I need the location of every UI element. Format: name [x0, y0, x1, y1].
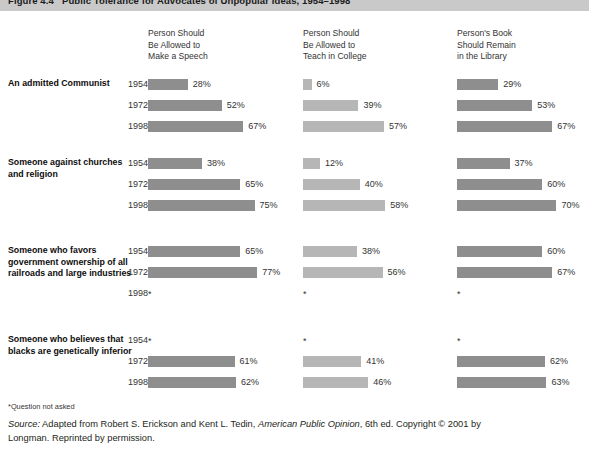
- bar: [457, 100, 532, 111]
- figure-title-bar: Figure 4.4 Public Tolerance for Advocate…: [0, 0, 589, 11]
- column-header-library: Person's Book Should Remain in the Libra…: [457, 28, 516, 63]
- bar: [303, 356, 361, 367]
- bar-value-label: 60%: [547, 179, 565, 189]
- bar: [303, 200, 385, 211]
- bar-value-label: 67%: [557, 121, 575, 131]
- bar: [303, 267, 383, 278]
- bar-value-label: 53%: [537, 100, 555, 110]
- bar: [303, 179, 360, 190]
- bar-value-label: 12%: [325, 158, 343, 168]
- bar-value-label: 65%: [245, 246, 263, 256]
- bar-value-label: 38%: [362, 246, 380, 256]
- bar: [148, 79, 188, 90]
- bar: [148, 179, 240, 190]
- year-label: 1954: [128, 335, 158, 345]
- not-asked-marker: *: [148, 336, 152, 346]
- bar: [457, 246, 542, 257]
- bar: [148, 100, 222, 111]
- bar: [303, 121, 384, 132]
- bar-value-label: 67%: [557, 267, 575, 277]
- bar: [148, 267, 257, 278]
- bar: [148, 377, 236, 388]
- bar-value-label: 39%: [363, 100, 381, 110]
- bar-value-label: 63%: [551, 377, 569, 387]
- bar-row: 1954***: [0, 334, 589, 347]
- bar-value-label: 6%: [317, 79, 330, 89]
- bar: [303, 79, 312, 90]
- bar: [457, 121, 552, 132]
- bar-value-label: 28%: [193, 79, 211, 89]
- bar-row: 197261%41%62%: [0, 355, 589, 368]
- not-asked-marker: *: [457, 289, 461, 299]
- bar-value-label: 75%: [260, 200, 278, 210]
- chart-group: Someone who believes that blacks are gen…: [0, 334, 589, 397]
- bar-value-label: 56%: [388, 267, 406, 277]
- bar: [457, 79, 498, 90]
- footnote: *Question not asked: [8, 402, 75, 411]
- bar-row: 197277%56%67%: [0, 266, 589, 279]
- figure-number-label: Figure 4.4: [8, 0, 54, 6]
- bar-value-label: 65%: [245, 179, 263, 189]
- bar: [457, 158, 510, 169]
- year-label: 1998: [128, 288, 158, 298]
- bar-value-label: 57%: [389, 121, 407, 131]
- source-note: Source: Adapted from Robert S. Erickson …: [8, 418, 500, 445]
- bar: [148, 200, 255, 211]
- not-asked-marker: *: [457, 336, 461, 346]
- bar-row: 1998***: [0, 287, 589, 300]
- bar-value-label: 60%: [547, 246, 565, 256]
- bar-value-label: 29%: [503, 79, 521, 89]
- bar-value-label: 41%: [366, 356, 384, 366]
- column-header-teach: Person Should Be Allowed to Teach in Col…: [303, 28, 367, 63]
- chart-group: Someone who favors government ownership …: [0, 245, 589, 308]
- bar-row: 197252%39%53%: [0, 99, 589, 112]
- bar: [457, 179, 542, 190]
- figure-title: Public Tolerance for Advocates of Unpopu…: [62, 0, 350, 6]
- source-text-1: Adapted from Robert S. Erickson and Kent…: [40, 419, 258, 429]
- bar-value-label: 52%: [227, 100, 245, 110]
- bar: [148, 246, 240, 257]
- not-asked-marker: *: [303, 289, 307, 299]
- bar: [457, 267, 552, 278]
- bar-row: 199875%58%70%: [0, 199, 589, 212]
- bar-value-label: 58%: [390, 200, 408, 210]
- bar: [303, 158, 320, 169]
- column-header-speech: Person Should Be Allowed to Make a Speec…: [148, 28, 208, 63]
- bar-row: 195428%6%29%: [0, 78, 589, 91]
- bar-value-label: 62%: [550, 356, 568, 366]
- bar: [457, 377, 546, 388]
- bar-value-label: 37%: [515, 158, 533, 168]
- bar-value-label: 40%: [365, 179, 383, 189]
- bar-row: 199867%57%67%: [0, 120, 589, 133]
- bar-value-label: 70%: [561, 200, 579, 210]
- bar: [457, 200, 556, 211]
- bar-value-label: 62%: [241, 377, 259, 387]
- chart-group: Someone against churches and religion195…: [0, 157, 589, 220]
- bar-value-label: 67%: [248, 121, 266, 131]
- bar: [148, 121, 243, 132]
- bar-row: 199862%46%63%: [0, 376, 589, 389]
- bar-row: 195438%12%37%: [0, 157, 589, 170]
- bar: [148, 158, 202, 169]
- bar-value-label: 77%: [262, 267, 280, 277]
- bar: [303, 246, 357, 257]
- bar-value-label: 38%: [207, 158, 225, 168]
- not-asked-marker: *: [303, 336, 307, 346]
- bar: [303, 377, 368, 388]
- bar: [148, 356, 235, 367]
- bar-row: 195465%38%60%: [0, 245, 589, 258]
- bar-row: 197265%40%60%: [0, 178, 589, 191]
- bar: [457, 356, 545, 367]
- bar-value-label: 61%: [240, 356, 258, 366]
- source-book-title: American Public Opinion: [258, 419, 360, 429]
- not-asked-marker: *: [148, 289, 152, 299]
- chart-group: An admitted Communist195428%6%29%197252%…: [0, 78, 589, 141]
- figure-panel: Figure 4.4 Public Tolerance for Advocate…: [0, 0, 589, 454]
- bar-value-label: 46%: [373, 377, 391, 387]
- bar: [303, 100, 358, 111]
- source-lead: Source:: [8, 419, 40, 429]
